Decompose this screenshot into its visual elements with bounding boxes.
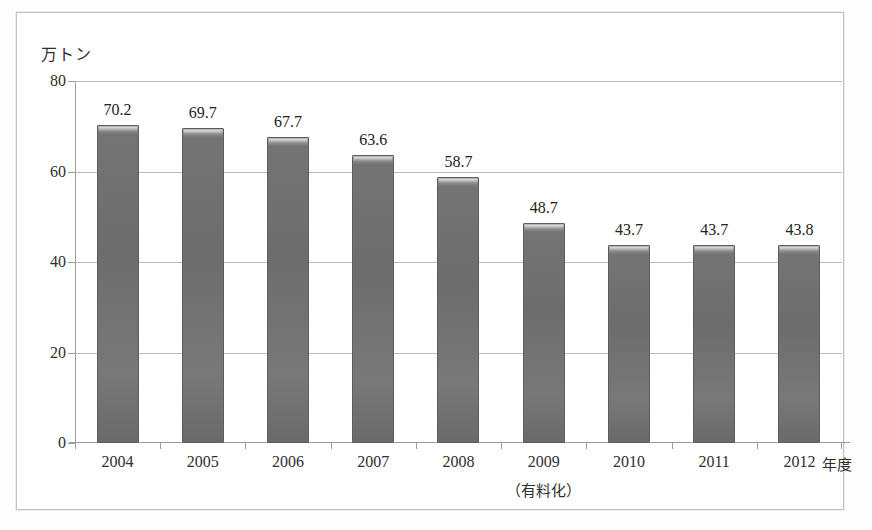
bar-value-label: 70.2 — [104, 101, 132, 119]
x-tick-mark — [245, 443, 246, 449]
bar-group: 70.22004 — [75, 81, 160, 443]
bar[interactable] — [267, 137, 309, 443]
bar[interactable] — [523, 223, 565, 443]
x-tick-mark — [75, 443, 76, 449]
y-tick-mark — [68, 81, 75, 82]
y-tick-label: 80 — [50, 72, 66, 90]
y-tick-mark — [68, 172, 75, 173]
x-tick-mark — [757, 443, 758, 449]
x-tick-mark — [160, 443, 161, 449]
bar-value-label: 43.8 — [785, 221, 813, 239]
x-tick-label: 2006 — [272, 453, 304, 471]
x-tick-mark — [586, 443, 587, 449]
x-tick-label: 2004 — [102, 453, 134, 471]
x-tick-label: 2010 — [613, 453, 645, 471]
y-tick-label: 20 — [50, 344, 66, 362]
x-tick-mark — [841, 443, 842, 449]
x-tick-label: 2005 — [187, 453, 219, 471]
bar-value-label: 43.7 — [700, 221, 728, 239]
bar-value-label: 58.7 — [444, 153, 472, 171]
bar-value-label: 48.7 — [530, 199, 558, 217]
y-tick-mark — [68, 353, 75, 354]
bar-group: 58.72008 — [416, 81, 501, 443]
chart-frame: 万トン 020406080 70.2200469.7200567.7200663… — [16, 12, 844, 510]
x-tick-mark — [501, 443, 502, 449]
x-tick-annotation: （有料化） — [506, 479, 581, 500]
x-tick-label: 2009 — [528, 453, 560, 471]
bar-group: 43.82012 — [757, 81, 842, 443]
bar-group: 48.72009（有料化） — [501, 81, 586, 443]
x-tick-mark — [416, 443, 417, 449]
bar-group: 63.62007 — [331, 81, 416, 443]
x-axis-title: 年度 — [822, 453, 852, 474]
y-axis-unit-label: 万トン — [41, 41, 92, 65]
y-tick-mark — [68, 443, 75, 444]
bar[interactable] — [97, 125, 139, 443]
bar-group: 43.72010 — [586, 81, 671, 443]
bar-value-label: 69.7 — [189, 104, 217, 122]
bar-value-label: 43.7 — [615, 221, 643, 239]
y-tick-label: 60 — [50, 163, 66, 181]
x-tick-label: 2012 — [783, 453, 815, 471]
x-tick-label: 2008 — [442, 453, 474, 471]
x-tick-label: 2007 — [357, 453, 389, 471]
bar[interactable] — [693, 245, 735, 443]
bar[interactable] — [778, 245, 820, 443]
x-tick-label: 2011 — [698, 453, 729, 471]
x-tick-mark — [672, 443, 673, 449]
bar[interactable] — [437, 177, 479, 443]
y-tick-label: 0 — [58, 434, 66, 452]
bars-layer: 70.2200469.7200567.7200663.6200758.72008… — [75, 81, 842, 443]
bar-value-label: 63.6 — [359, 131, 387, 149]
bar-group: 69.72005 — [160, 81, 245, 443]
bar[interactable] — [182, 128, 224, 443]
y-tick-label: 40 — [50, 253, 66, 271]
plot-area: 020406080 70.2200469.7200567.7200663.620… — [75, 81, 842, 443]
x-tick-mark — [331, 443, 332, 449]
bar-group: 43.72011 — [672, 81, 757, 443]
bar-group: 67.72006 — [245, 81, 330, 443]
bar-value-label: 67.7 — [274, 113, 302, 131]
y-tick-mark — [68, 262, 75, 263]
chart-root: 万トン 020406080 70.2200469.7200567.7200663… — [0, 0, 872, 530]
bar[interactable] — [352, 155, 394, 443]
bar[interactable] — [608, 245, 650, 443]
